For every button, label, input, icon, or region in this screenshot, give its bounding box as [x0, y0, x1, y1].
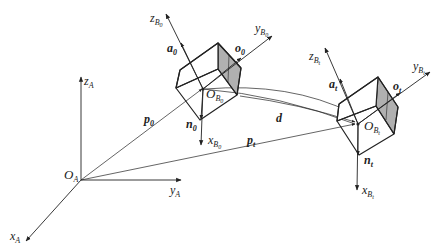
label-z-a: zA	[84, 75, 94, 90]
label-x-b0: xB0	[208, 134, 221, 150]
label-origin-b0: OB0	[206, 87, 223, 104]
label-origin-a: OA	[64, 168, 78, 184]
label-x-bt: xBt	[362, 184, 374, 200]
label-ot: ot	[393, 80, 401, 95]
label-y-a: yA	[170, 184, 180, 199]
label-p0: p0	[144, 113, 154, 128]
origin-bt-dot	[356, 122, 359, 125]
label-z-bt: zBt	[309, 50, 320, 66]
label-a0: a0	[167, 42, 177, 57]
world-frame	[26, 77, 181, 241]
label-n0: n0	[186, 118, 197, 133]
label-at: at	[329, 78, 337, 93]
label-origin-bt: OBt	[364, 119, 380, 136]
label-z-b0: zB0	[150, 12, 163, 28]
pt-vector	[81, 124, 355, 180]
label-pt: pt	[247, 134, 255, 149]
body-box-t	[337, 77, 398, 155]
label-d: d	[276, 112, 282, 124]
label-o0: o0	[235, 42, 245, 57]
x-axis-a	[26, 180, 81, 241]
origin-b0-dot	[201, 87, 204, 90]
label-x-a: xA	[10, 230, 20, 245]
label-y-bt: yBt	[413, 60, 425, 76]
label-y-b0: yB0	[255, 22, 268, 38]
label-nt: nt	[364, 154, 373, 169]
p0-vector	[81, 89, 202, 180]
